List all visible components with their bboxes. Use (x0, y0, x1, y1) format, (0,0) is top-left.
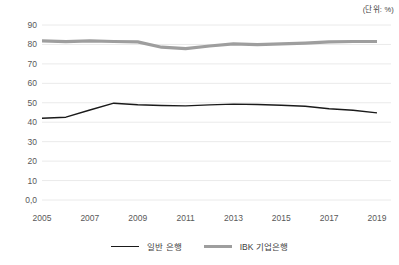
legend-label-general-banks: 일반 은행 (147, 240, 181, 252)
x-tick-label-2005: 2005 (33, 213, 52, 223)
y-tick-label-0: 0,0 (25, 195, 37, 205)
x-tick-label-2007: 2007 (80, 213, 99, 223)
legend-item-general-banks: 일반 은행 (111, 240, 181, 252)
x-tick-label-2013: 2013 (224, 213, 243, 223)
y-tick-label-50: 50 (28, 98, 38, 108)
legend-line-swatch-black (111, 246, 139, 247)
legend-line-swatch-gray (204, 245, 232, 248)
x-tick-label-2011: 2011 (176, 213, 195, 223)
y-tick-label-90: 90 (28, 20, 38, 30)
legend: 일반 은행 IBK 기업은행 (0, 240, 399, 252)
x-tick-label-2009: 2009 (128, 213, 147, 223)
y-tick-label-40: 40 (28, 117, 38, 127)
x-tick-label-2017: 2017 (320, 213, 339, 223)
line-chart: 0,01020304050607080902005200720092011201… (0, 0, 399, 232)
y-tick-label-10: 10 (28, 176, 38, 186)
series-line-general-banks (42, 103, 377, 118)
y-tick-label-30: 30 (28, 137, 38, 147)
y-tick-label-60: 60 (28, 78, 38, 88)
legend-label-ibk-bank: IBK 기업은행 (240, 240, 288, 252)
y-tick-label-70: 70 (28, 59, 38, 69)
x-tick-label-2019: 2019 (368, 213, 387, 223)
x-tick-label-2015: 2015 (272, 213, 291, 223)
legend-item-ibk-bank: IBK 기업은행 (204, 240, 288, 252)
y-tick-label-80: 80 (28, 39, 38, 49)
y-tick-label-20: 20 (28, 156, 38, 166)
chart-page: (단위: %) 0,010203040506070809020052007200… (0, 0, 399, 265)
